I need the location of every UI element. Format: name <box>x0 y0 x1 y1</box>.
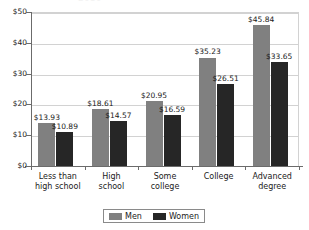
y-axis-tick-label: $10 <box>0 131 27 139</box>
bar-value-label: $33.65 <box>264 53 295 61</box>
x-axis-category-label-line: college <box>132 182 198 192</box>
y-axis-tick-label: $20 <box>0 100 27 108</box>
bar-value-label: $20.95 <box>139 92 170 100</box>
y-axis-tick-label: $0 <box>0 162 27 170</box>
bar-group: $20.95$16.59 <box>146 12 181 166</box>
x-axis-category-label-line: degree <box>239 182 305 192</box>
bar-group: $45.84$33.65 <box>253 12 288 166</box>
legend-entry-men[interactable]: Men <box>109 212 142 221</box>
bar-women[interactable] <box>110 121 127 166</box>
bar-value-label: $26.51 <box>210 75 241 83</box>
x-axis-tick-mark <box>245 166 246 170</box>
bar-value-label: $10.89 <box>49 123 80 131</box>
x-axis-tick-mark <box>138 166 139 170</box>
chart-title-fragment: 2010 <box>78 0 102 3</box>
bar-group: $35.23$26.51 <box>199 12 234 166</box>
legend-label: Women <box>169 212 199 221</box>
bar-women[interactable] <box>271 62 288 166</box>
y-axis-tick-label: $40 <box>0 39 27 47</box>
legend-label: Men <box>125 212 142 221</box>
bar-value-label: $13.93 <box>31 114 62 122</box>
bar-group: $13.93$10.89 <box>38 12 73 166</box>
bar-value-label: $35.23 <box>192 48 223 56</box>
x-axis-category-label-line: Advanced <box>239 172 305 182</box>
y-axis-tick-label: $50 <box>0 8 27 16</box>
bar-value-label: $45.84 <box>246 16 277 24</box>
x-axis-tick-mark <box>31 166 32 170</box>
x-axis-line <box>25 166 303 167</box>
bar-men[interactable] <box>253 25 270 166</box>
cropped-title-sliver: 2010 <box>0 0 309 7</box>
chart-legend: MenWomen <box>103 209 205 223</box>
legend-entry-women[interactable]: Women <box>153 212 199 221</box>
y-axis-tick-label: $30 <box>0 70 27 78</box>
bar-women[interactable] <box>56 132 73 166</box>
bar-value-label: $14.57 <box>103 112 134 120</box>
bars-layer: $13.93$10.89$18.61$14.57$20.95$16.59$35.… <box>31 12 299 166</box>
bar-women[interactable] <box>217 84 234 166</box>
x-axis-tick-mark <box>192 166 193 170</box>
bar-value-label: $18.61 <box>85 100 116 108</box>
legend-swatch-icon <box>153 213 166 220</box>
bar-women[interactable] <box>164 115 181 166</box>
x-axis-tick-mark <box>85 166 86 170</box>
bar-value-label: $16.59 <box>157 106 188 114</box>
legend-swatch-icon <box>109 213 122 220</box>
bar-group: $18.61$14.57 <box>92 12 127 166</box>
x-axis-category-label: Advanceddegree <box>239 172 305 192</box>
x-axis-tick-mark <box>299 166 300 170</box>
